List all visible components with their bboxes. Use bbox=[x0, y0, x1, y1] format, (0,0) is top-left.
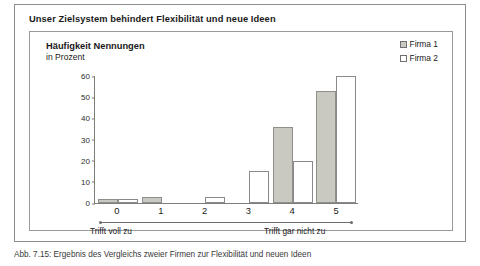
x-axis-label: 4 bbox=[270, 205, 314, 216]
y-axis-tick: 60 bbox=[81, 72, 95, 81]
bar bbox=[336, 76, 356, 203]
bar bbox=[316, 91, 336, 203]
bar bbox=[142, 197, 162, 203]
plot-region: 60 50 40 30 20 10 0 012345 Trifft voll z… bbox=[56, 76, 358, 234]
y-axis-tick: 10 bbox=[81, 177, 95, 186]
bar-group bbox=[183, 76, 227, 203]
axis-heading-secondary: in Prozent bbox=[46, 52, 145, 63]
bar-series-container bbox=[96, 76, 358, 203]
bar bbox=[273, 127, 293, 203]
legend-label: Firma 2 bbox=[410, 53, 438, 63]
y-axis-tick: 50 bbox=[81, 93, 95, 102]
chart-axis-heading: Häufigkeit Nennungen in Prozent bbox=[46, 40, 145, 64]
figure-title: Unser Zielsystem behindert Flexibilität … bbox=[29, 14, 276, 24]
axis-heading-primary: Häufigkeit Nennungen bbox=[46, 40, 145, 52]
legend-swatch-icon bbox=[400, 55, 407, 62]
x-axis-label: 0 bbox=[95, 205, 139, 216]
y-axis-tick: 0 bbox=[86, 199, 95, 208]
legend-item-firma-1: Firma 1 bbox=[400, 39, 438, 49]
chart-legend: Firma 1 Firma 2 bbox=[400, 39, 438, 67]
legend-item-firma-2: Firma 2 bbox=[400, 53, 438, 63]
y-axis-tick: 30 bbox=[81, 135, 95, 144]
bar-group bbox=[140, 76, 184, 203]
x-axis-label: 3 bbox=[226, 205, 270, 216]
bar-group bbox=[271, 76, 315, 203]
bar-group bbox=[314, 76, 358, 203]
bar bbox=[98, 199, 118, 203]
bar bbox=[205, 197, 225, 203]
legend-swatch-icon bbox=[400, 41, 407, 48]
figure-frame: Unser Zielsystem behindert Flexibilität … bbox=[14, 4, 466, 242]
y-axis-tick: 40 bbox=[81, 114, 95, 123]
x-axis-label: 5 bbox=[314, 205, 358, 216]
bar bbox=[293, 161, 313, 203]
plot-axes: 60 50 40 30 20 10 0 bbox=[94, 76, 358, 204]
bar bbox=[249, 171, 269, 203]
bar-group bbox=[227, 76, 271, 203]
legend-label: Firma 1 bbox=[410, 39, 438, 49]
bar-group bbox=[96, 76, 140, 203]
scale-anchor-left: Trifft voll zu bbox=[90, 226, 132, 236]
x-axis-label: 1 bbox=[139, 205, 183, 216]
x-axis-labels: 012345 bbox=[95, 205, 358, 216]
scale-line bbox=[100, 222, 352, 223]
x-axis-label: 2 bbox=[183, 205, 227, 216]
scale-anchor-right: Trifft gar nicht zu bbox=[264, 226, 325, 236]
y-axis-tick: 20 bbox=[81, 156, 95, 165]
bar bbox=[118, 199, 138, 203]
figure-caption: Abb. 7.15: Ergebnis des Vergleichs zweie… bbox=[14, 250, 464, 260]
chart-panel: Häufigkeit Nennungen in Prozent Firma 1 … bbox=[29, 31, 453, 231]
